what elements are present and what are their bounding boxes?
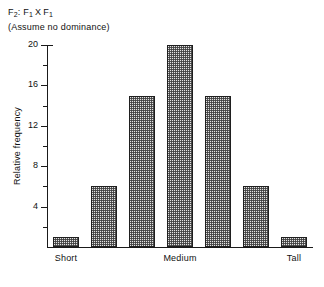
bar [53, 237, 79, 247]
bar [91, 186, 117, 247]
x-axis-label-tall: Tall [287, 252, 301, 264]
x-axis-line [47, 247, 313, 248]
y-tick-label-4: 4 [33, 201, 38, 212]
chart-title-block: F2: F1XF1 (Assume no dominance) [8, 6, 110, 34]
y-tick-label-8: 8 [33, 160, 38, 171]
bar-chart-figure: F2: F1XF1 (Assume no dominance) Relative… [0, 0, 324, 287]
bar-series [47, 45, 313, 247]
bar [129, 96, 155, 248]
bar [243, 186, 269, 247]
title-parent-a-subscript: 1 [29, 11, 33, 18]
plot-area: Relative frequency 48121620 ShortMediumT… [47, 45, 313, 247]
y-tick-label-16: 16 [28, 79, 38, 90]
y-tick-label-20: 20 [28, 39, 38, 50]
bar [167, 45, 193, 247]
y-axis-title-text: Relative frequency [12, 107, 22, 185]
chart-title: F2: F1XF1 [8, 6, 110, 21]
title-parent-b-subscript: 1 [49, 11, 53, 18]
bar [281, 237, 307, 247]
title-colon: : [18, 7, 21, 17]
x-axis-label-short: Short [55, 252, 78, 264]
bar [205, 96, 231, 248]
x-axis-labels: ShortMediumTall [47, 252, 313, 268]
y-axis-title: Relative frequency [11, 45, 23, 247]
x-axis-label-medium: Medium [163, 252, 196, 264]
chart-subtitle: (Assume no dominance) [8, 21, 110, 34]
cross-symbol: X [35, 7, 41, 17]
y-tick-label-12: 12 [28, 120, 38, 131]
